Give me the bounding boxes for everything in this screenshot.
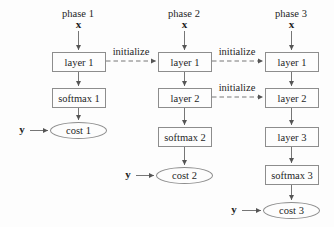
phase-2-target-y: y (121, 169, 135, 180)
phase-2-node-softmax-2: softmax 2 (158, 127, 212, 147)
phase-3-input-x: x (285, 19, 299, 30)
edges-layer (0, 0, 334, 227)
init-label-p2-p3-layer2: initialize (207, 82, 267, 94)
phase-1-node-layer-1: layer 1 (52, 52, 106, 72)
phase-3-node-cost-3: cost 3 (263, 202, 320, 219)
phase-2-node-layer-1: layer 1 (158, 52, 212, 72)
phase-1-node-softmax-1: softmax 1 (52, 88, 106, 108)
phase-1-target-y: y (15, 124, 29, 135)
phase-2-node-cost-2: cost 2 (156, 167, 213, 184)
phase-3-node-layer-2: layer 2 (265, 88, 319, 108)
init-label-p1-p2-layer1: initialize (101, 46, 161, 58)
phase-3-node-layer-1: layer 1 (265, 52, 319, 72)
phase-1-input-x: x (72, 19, 86, 30)
phase-2-node-layer-2: layer 2 (158, 88, 212, 108)
phase-2-input-x: x (178, 19, 192, 30)
phase-1-node-cost-1: cost 1 (50, 122, 107, 139)
greedy-pretraining-diagram: phase 1 x layer 1 softmax 1 cost 1 y pha… (0, 0, 334, 227)
phase-3-node-layer-3: layer 3 (265, 127, 319, 147)
phase-3-target-y: y (227, 204, 241, 215)
phase-3-node-softmax-3: softmax 3 (265, 165, 319, 185)
init-label-p2-p3-layer1: initialize (207, 46, 267, 58)
